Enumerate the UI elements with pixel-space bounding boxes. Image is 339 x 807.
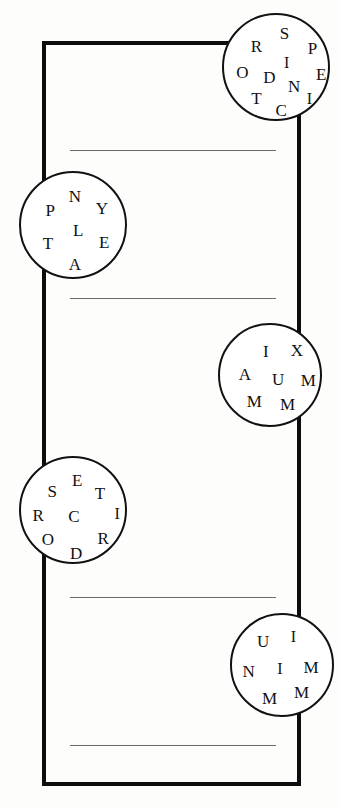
scrambled-letter: M (280, 396, 295, 413)
circle-4[interactable]: ESTRCIORD (19, 456, 127, 564)
circle-5[interactable]: UINIMMM (230, 613, 334, 717)
circle-1[interactable]: RSPIODNETIC (222, 13, 330, 121)
scrambled-letter: T (251, 90, 261, 107)
scrambled-letter: P (308, 40, 317, 57)
scrambled-letter: N (69, 187, 81, 204)
circle-2[interactable]: NPYLTEA (19, 171, 127, 279)
scrambled-letter: T (43, 235, 53, 252)
scrambled-letter: T (95, 484, 105, 501)
scrambled-letter: D (263, 68, 275, 85)
circle-3[interactable]: IXAUMMM (218, 323, 322, 427)
scrambled-letter: I (284, 55, 289, 71)
scrambled-letter: C (68, 508, 79, 525)
scrambled-letter: N (288, 78, 300, 95)
scrambled-letter: I (277, 661, 282, 677)
scrambled-letter: S (48, 483, 57, 500)
answer-line-2[interactable] (70, 298, 276, 299)
scrambled-letter: M (294, 683, 309, 700)
scrambled-letter: P (45, 201, 54, 218)
scrambled-letter: A (239, 365, 251, 382)
scrambled-letter: U (272, 371, 284, 388)
scrambled-letter: E (99, 234, 109, 251)
worksheet-canvas: RSPIODNETICNPYLTEAIXAUMMMESTRCIORDUINIMM… (0, 0, 339, 807)
scrambled-letter: E (72, 471, 82, 488)
answer-line-4[interactable] (70, 745, 276, 746)
scrambled-letter: S (280, 25, 289, 42)
scrambled-letter: I (114, 506, 119, 522)
scrambled-letter: Y (96, 199, 108, 216)
scrambled-letter: M (262, 690, 277, 707)
scrambled-letter: I (307, 91, 312, 107)
scrambled-letter: C (276, 102, 287, 119)
scrambled-letter: I (263, 343, 269, 360)
scrambled-letter: O (42, 531, 54, 548)
scrambled-letter: N (242, 663, 254, 680)
scrambled-letter: I (291, 629, 296, 645)
answer-line-1[interactable] (70, 150, 276, 151)
scrambled-letter: M (303, 659, 318, 676)
scrambled-letter: A (69, 255, 81, 272)
scrambled-letter: U (257, 633, 269, 650)
scrambled-letter: X (291, 341, 303, 358)
scrambled-letter: O (236, 64, 248, 81)
scrambled-letter: R (97, 529, 108, 546)
scrambled-letter: E (316, 66, 326, 83)
scrambled-letter: R (33, 507, 44, 524)
scrambled-letter: L (73, 222, 83, 239)
scrambled-letter: R (251, 38, 262, 55)
answer-line-3[interactable] (70, 597, 276, 598)
scrambled-letter: M (301, 372, 316, 389)
scrambled-letter: D (70, 545, 82, 562)
scrambled-letter: M (247, 392, 262, 409)
